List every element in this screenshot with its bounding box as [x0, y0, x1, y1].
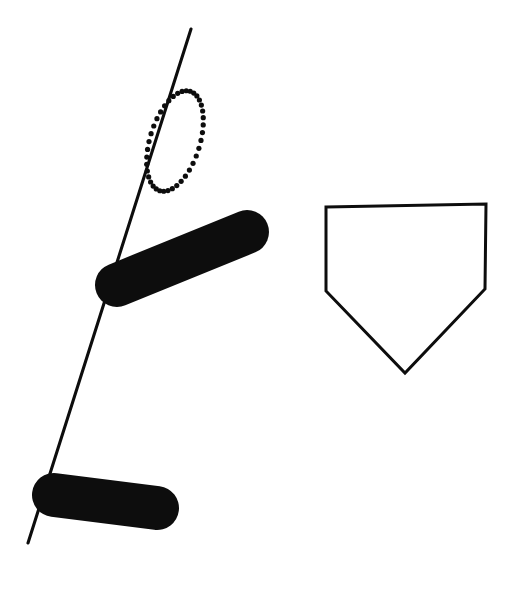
ellipse-dot — [171, 94, 176, 99]
ellipse-dot — [144, 154, 149, 159]
ellipse-dot — [183, 174, 188, 179]
ellipse-dot — [201, 115, 206, 120]
lower-blob — [54, 495, 157, 508]
ellipse-dot — [146, 139, 151, 144]
ellipse-dot — [146, 174, 151, 179]
ellipse-dot — [199, 102, 204, 107]
ellipse-dot — [158, 109, 163, 114]
ellipse-dot — [194, 153, 199, 158]
drawing-surface — [0, 0, 515, 615]
figure-canvas — [0, 0, 515, 615]
ellipse-dot — [166, 98, 171, 103]
ellipse-dot — [151, 123, 156, 128]
ellipse-dot — [198, 138, 203, 143]
ellipse-dot — [162, 103, 167, 108]
ellipse-dot — [144, 162, 149, 167]
ellipse-dot — [190, 161, 195, 166]
ellipse-dot — [148, 131, 153, 136]
lower-blob-body — [54, 495, 157, 508]
canvas-background — [0, 0, 515, 615]
ellipse-dot — [196, 146, 201, 151]
ellipse-dot — [154, 116, 159, 121]
ellipse-dot — [187, 167, 192, 172]
ellipse-dot — [145, 147, 150, 152]
ellipse-dot — [200, 108, 205, 113]
ellipse-dot — [174, 183, 179, 188]
ellipse-dot — [201, 122, 206, 127]
ellipse-dot — [200, 130, 205, 135]
ellipse-dot — [148, 179, 153, 184]
ellipse-dot — [197, 97, 202, 102]
ellipse-dot — [145, 168, 150, 173]
ellipse-dot — [179, 179, 184, 184]
